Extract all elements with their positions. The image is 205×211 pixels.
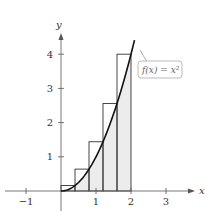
x-axis-label: x bbox=[199, 185, 205, 196]
x-axis-arrow-icon bbox=[188, 189, 195, 194]
y-tick-label: 2 bbox=[47, 117, 53, 128]
x-tick-label: 1 bbox=[93, 196, 99, 207]
x-tick-label: 2 bbox=[128, 196, 134, 207]
y-axis-label: y bbox=[55, 19, 62, 30]
function-label: f(x) = x² bbox=[141, 65, 180, 75]
y-tick-label: 3 bbox=[47, 83, 53, 94]
x-tick-label: −1 bbox=[19, 196, 34, 207]
y-tick-label: 4 bbox=[47, 49, 53, 60]
y-tick-label: 1 bbox=[47, 151, 53, 162]
x-tick-label: 3 bbox=[163, 196, 169, 207]
riemann-sum-chart: −1123 1234 x y f(x) = x² bbox=[0, 0, 205, 211]
y-axis-arrow-icon bbox=[59, 33, 64, 40]
function-callout: f(x) = x² bbox=[138, 50, 182, 78]
shaded-area-under-curve bbox=[61, 54, 131, 191]
y-axis bbox=[59, 33, 64, 211]
